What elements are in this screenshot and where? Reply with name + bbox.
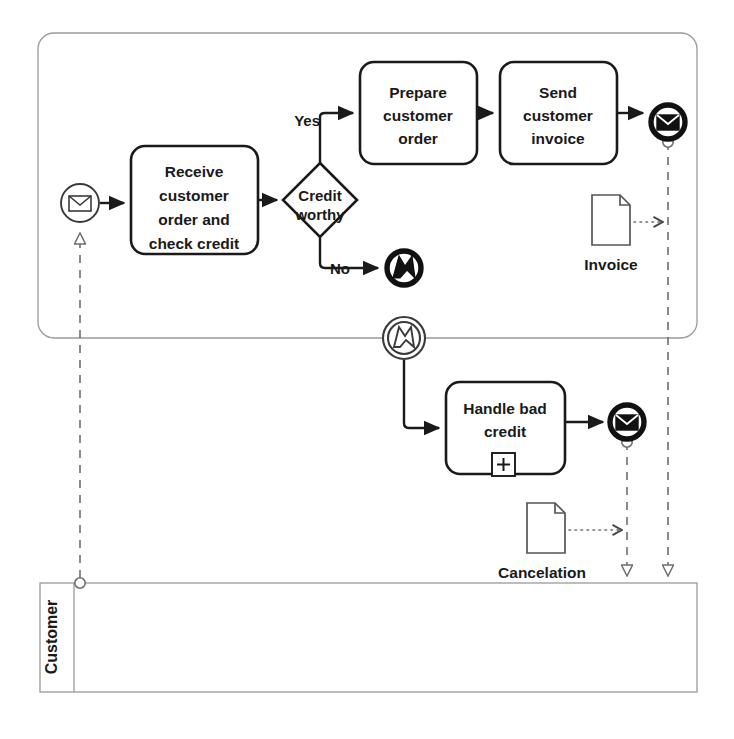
task-label-line: credit (484, 423, 526, 440)
task-label-line: Prepare (389, 84, 447, 101)
task-label-line: customer (159, 187, 229, 204)
gateway-label-line: worthy (294, 206, 345, 223)
data-object-label-invoice: Invoice (584, 256, 638, 273)
gateway-credit-worthy[interactable]: Credit worthy (283, 163, 357, 237)
task-receive-customer-order[interactable]: Receive customer order and check credit (131, 146, 258, 254)
task-label-line: customer (523, 107, 593, 124)
message-flow-invoice-to-customer (663, 137, 673, 576)
task-label-line: check credit (149, 235, 239, 252)
pool-customer: Customer (40, 583, 697, 692)
task-label-line: Send (539, 84, 577, 101)
flow-label-yes: Yes (294, 112, 320, 129)
flow-label-no: No (330, 260, 350, 277)
message-flow-customer-to-start (75, 233, 85, 588)
task-label-line: Handle bad (463, 400, 547, 417)
task-label-line: order (398, 130, 438, 147)
gateway-label-line: Credit (298, 187, 341, 204)
bpmn-canvas: Customer Receive custome (0, 0, 734, 739)
message-end-event-invoice[interactable] (651, 105, 685, 139)
data-object-label-cancelation: Cancelation (498, 564, 586, 581)
envelope-icon (69, 196, 91, 211)
message-end-event-cancelation[interactable] (610, 405, 644, 439)
task-send-customer-invoice[interactable]: Send customer invoice (500, 62, 617, 164)
error-start-event[interactable] (383, 317, 425, 359)
task-label-line: customer (383, 107, 453, 124)
svg-text:No: No (330, 260, 350, 277)
data-object-cancelation[interactable]: Cancelation (498, 503, 622, 581)
sequence-flow-error-start-to-handle (404, 360, 439, 428)
task-prepare-customer-order[interactable]: Prepare customer order (360, 62, 477, 164)
svg-text:Yes: Yes (294, 112, 320, 129)
data-object-invoice[interactable]: Invoice (584, 195, 663, 273)
subprocess-handle-bad-credit[interactable]: Handle bad credit (446, 382, 565, 476)
task-label-line: invoice (531, 130, 585, 147)
task-label-line: order and (158, 211, 229, 228)
message-flow-cancelation-to-customer (622, 437, 632, 576)
error-end-event[interactable] (387, 251, 421, 285)
task-label-line: Receive (165, 163, 224, 180)
envelope-icon-filled (657, 115, 679, 130)
message-start-event[interactable] (61, 184, 99, 222)
envelope-icon-filled (616, 415, 638, 430)
sequence-flow-gateway-yes-to-prepare (320, 113, 353, 163)
collapsed-subprocess-plus-icon[interactable] (492, 453, 515, 476)
pool-label-customer: Customer (43, 600, 60, 675)
bpmn-diagram: Customer Receive custome (0, 0, 734, 739)
